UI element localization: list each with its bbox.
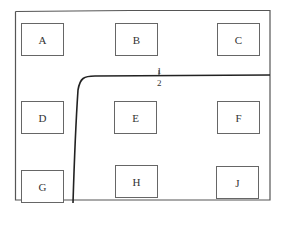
room-label: H: [133, 176, 141, 188]
room-label: A: [39, 34, 47, 46]
boundary-label-lower: 2: [157, 79, 162, 88]
room-d: D: [21, 101, 64, 134]
boundary-label-upper: 1: [157, 67, 162, 76]
room-label: B: [133, 34, 140, 46]
room-b: B: [115, 23, 158, 56]
room-label: J: [235, 177, 239, 189]
room-j: J: [216, 166, 259, 199]
room-label: E: [132, 112, 139, 124]
room-e: E: [114, 101, 157, 134]
room-h: H: [115, 165, 158, 198]
room-c: C: [217, 23, 260, 56]
room-f: F: [217, 101, 260, 134]
room-label: C: [235, 34, 242, 46]
room-label: G: [39, 181, 47, 193]
room-a: A: [21, 23, 64, 56]
room-g: G: [21, 170, 64, 203]
room-label: D: [39, 112, 47, 124]
room-label: F: [235, 112, 241, 124]
